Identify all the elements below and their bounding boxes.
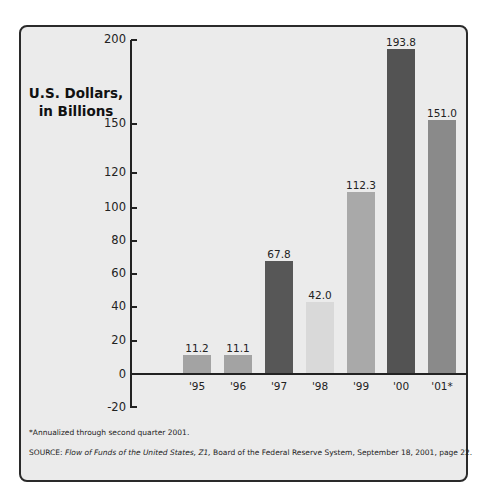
y-tick: [131, 340, 137, 342]
y-tick-label: 40: [86, 299, 126, 313]
bar-value-label: 11.1: [216, 342, 260, 354]
x-tick-label: '00: [379, 380, 423, 392]
y-axis-title-line1: U.S. Dollars,: [26, 84, 126, 102]
y-tick-label: 0: [86, 367, 126, 381]
x-tick-label: '96: [216, 380, 260, 392]
bar-value-label: 42.0: [298, 289, 342, 301]
y-tick: [131, 172, 137, 174]
bar-value-label: 193.8: [379, 36, 423, 48]
source-prefix: SOURCE:: [29, 448, 65, 457]
y-tick: [131, 207, 137, 209]
y-tick-label: -20: [86, 400, 126, 414]
y-tick-label: 150: [86, 116, 126, 130]
y-tick-label: 120: [86, 165, 126, 179]
y-tick: [131, 273, 137, 275]
bar-1995: [183, 355, 211, 373]
bar-1999: [347, 192, 375, 373]
y-tick-label: 200: [86, 32, 126, 46]
bar-1998: [306, 302, 334, 373]
bar-1997: [265, 261, 293, 373]
y-tick-label: 80: [86, 233, 126, 247]
bar-value-label: 112.3: [339, 179, 383, 191]
y-tick: [131, 240, 137, 242]
y-tick-label: 20: [86, 333, 126, 347]
y-tick: [131, 306, 137, 308]
x-tick-label: '95: [175, 380, 219, 392]
x-tick-label: '97: [257, 380, 301, 392]
y-tick: [131, 406, 137, 408]
zero-baseline: [130, 373, 467, 375]
source-title: Flow of Funds of the United States, Z1,: [65, 448, 211, 457]
bar-value-label: 67.8: [257, 248, 301, 260]
x-tick-label: '01*: [420, 380, 464, 392]
y-tick: [131, 39, 137, 41]
y-axis-line: [130, 40, 132, 408]
bar-1996: [224, 355, 252, 373]
x-tick-label: '98: [298, 380, 342, 392]
source-details: Board of the Federal Reserve System, Sep…: [211, 448, 472, 457]
bar-value-label: 11.2: [175, 342, 219, 354]
bar-2001: [428, 120, 456, 373]
x-tick-label: '99: [339, 380, 383, 392]
y-tick-label: 100: [86, 200, 126, 214]
footnote: *Annualized through second quarter 2001.: [29, 428, 189, 437]
bar-value-label: 151.0: [420, 107, 464, 119]
y-axis-title: U.S. Dollars, in Billions: [26, 84, 126, 120]
y-tick-label: 60: [86, 266, 126, 280]
source-citation: SOURCE: Flow of Funds of the United Stat…: [29, 448, 472, 457]
y-tick: [131, 123, 137, 125]
bar-2000: [387, 49, 415, 373]
